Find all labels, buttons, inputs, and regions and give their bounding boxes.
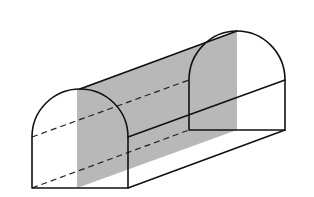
shaded-cross-section (77, 31, 237, 188)
tunnel-solid-diagram (0, 0, 314, 197)
